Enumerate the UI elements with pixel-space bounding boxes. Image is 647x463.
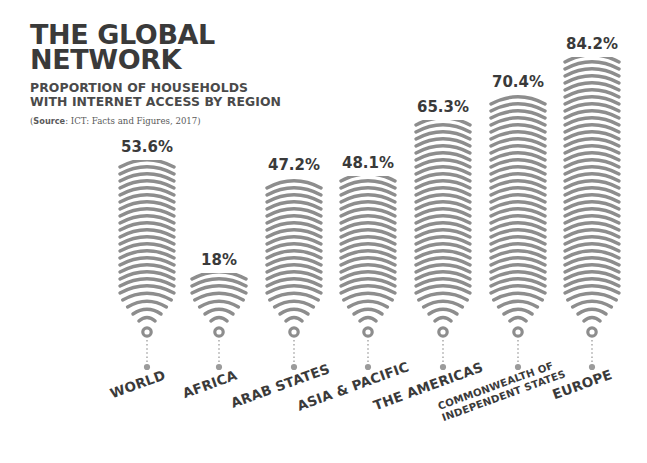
category-label-world: WORLD xyxy=(108,367,168,402)
label-leader-line xyxy=(437,340,449,374)
label-leader-line xyxy=(213,340,225,374)
wifi-bar-arcs[interactable] xyxy=(483,95,553,348)
wifi-bar-arcs[interactable] xyxy=(557,57,627,348)
bar-value-label: 65.3% xyxy=(393,98,493,116)
bar-value-label: 18% xyxy=(169,251,269,269)
wifi-bar-arcs[interactable] xyxy=(259,178,329,348)
bar-value-label: 53.6% xyxy=(97,138,197,156)
label-leader-line xyxy=(586,340,598,374)
bar-value-label: 84.2% xyxy=(542,35,642,53)
label-leader-line xyxy=(288,340,300,374)
wifi-bar-chart: 53.6%WORLD18%AFRICA47.2%ARAB STATES48.1%… xyxy=(0,0,647,463)
bar-value-label: 48.1% xyxy=(318,154,418,172)
wifi-bar-arcs[interactable] xyxy=(408,120,478,348)
category-label-line1: WORLD xyxy=(108,367,168,402)
label-leader-line xyxy=(512,340,524,374)
wifi-bar-arcs[interactable] xyxy=(333,176,403,348)
bar-value-label: 70.4% xyxy=(468,73,568,91)
wifi-bar-arcs[interactable] xyxy=(184,273,254,348)
infographic-canvas: THE GLOBAL NETWORK PROPORTION OF HOUSEHO… xyxy=(0,0,647,463)
label-leader-line xyxy=(141,340,153,374)
label-leader-line xyxy=(362,340,374,374)
